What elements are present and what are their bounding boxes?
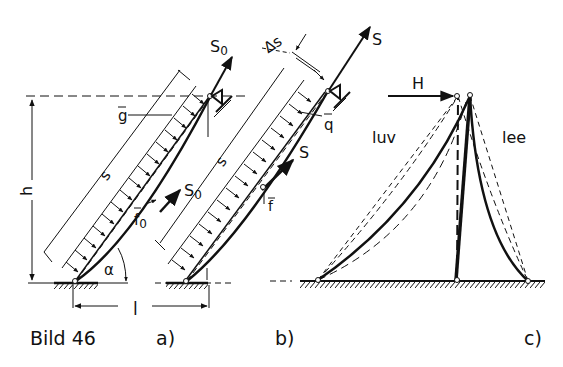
leeward-anchor <box>526 279 531 284</box>
span-label: l <box>133 299 138 319</box>
panel-c: H luv lee <box>270 74 545 288</box>
panel-label-b: b) <box>275 327 294 349</box>
load-label-q: q <box>324 116 334 134</box>
panel-label-c: c) <box>524 327 542 349</box>
angle-label: α <box>104 261 114 279</box>
base-pin-a <box>73 279 78 284</box>
cable-band-b <box>168 80 325 280</box>
force-s0-mid-arrow <box>160 190 180 212</box>
ground-hatch-c <box>300 281 545 288</box>
mast-top-deflected <box>468 93 473 98</box>
base-pin-b <box>184 279 189 284</box>
mast-foot <box>455 278 460 283</box>
leeward-label: lee <box>502 128 526 147</box>
sag-label-f: f <box>268 198 274 214</box>
delta-s-label: Δs <box>260 32 285 57</box>
diagram-canvas: h <box>0 0 563 367</box>
panel-b: S Δs s q S f <box>155 27 382 289</box>
force-s-mid-label: S <box>299 143 309 162</box>
force-s-mid-arrow <box>262 160 293 190</box>
top-support-a <box>208 90 233 137</box>
length-dimension-a <box>44 70 180 252</box>
length-label-b: s <box>212 153 231 170</box>
figure-bild-46: h <box>0 0 563 367</box>
force-s-top-arrow <box>329 27 370 90</box>
load-label-g: g <box>118 107 128 125</box>
force-s0-top-label: S0 <box>210 37 228 58</box>
windward-cable-loaded <box>318 96 470 280</box>
force-s0-mid-label: S0 <box>184 181 202 202</box>
figure-caption: Bild 46 <box>30 327 96 349</box>
force-h-label: H <box>412 74 424 93</box>
windward-label: luv <box>372 128 396 147</box>
force-s-top-label: S <box>372 30 382 49</box>
panel-a: h <box>17 37 250 319</box>
angle-arc <box>118 248 126 281</box>
panel-label-a: a) <box>156 327 175 349</box>
mast-top-original <box>455 94 460 99</box>
windward-anchor <box>316 278 321 283</box>
height-label: h <box>17 186 36 196</box>
